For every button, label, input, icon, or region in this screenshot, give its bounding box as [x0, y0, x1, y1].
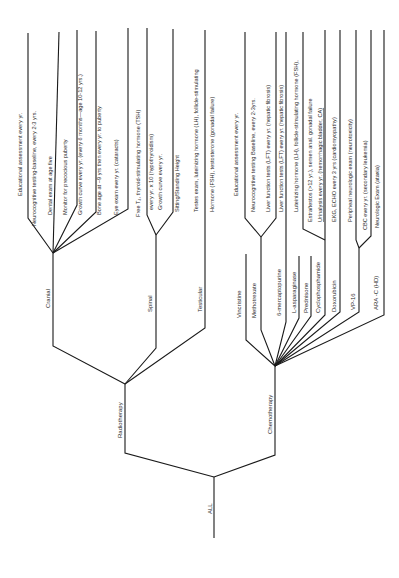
testicular-items: Testes exam, luteinizing hormone (LH), f… [193, 69, 215, 212]
leaf-spinal-hypothyroidism: every yr. x 10 (hypothyroidism) [148, 134, 154, 210]
leaf-cranial-dental: Dental exam at age five [47, 156, 53, 215]
leaf-cyclo-estradiol: Estra/testos (>12 yr.), semen anal. gona… [307, 98, 313, 222]
leaf-mtx-lft: Liver function tests (LFT) every yr. (he… [265, 85, 271, 212]
leaf-cyclo-lh-fsh: Luteinizing hormone (LH), follicle-stimu… [293, 60, 299, 212]
node-prednisone: Prednisone [303, 282, 309, 313]
node-all: ALL [207, 503, 213, 514]
leaf-testicular-hormone: Hormone (FSH), testosterone (gonadal fai… [209, 97, 215, 212]
leaf-6mp-lft: Liver function tests (LFT) every yr. (he… [278, 85, 284, 212]
node-radiotherapy: Radiotherapy [117, 402, 123, 438]
leaf-mtx-neurocognitive: Neurocognitive testing Baseline, every 2… [250, 98, 256, 212]
edge-methotrexate [261, 237, 275, 366]
cranial-items: Educational assessment every yr. Neuroco… [17, 74, 119, 226]
leaf-cranial-eye: Eye exam every yr. (cataracts) [113, 139, 119, 215]
leaf-cranial-growth: Growth curve every yr. (every 6 months—a… [77, 74, 83, 215]
leaf-doxo-ekg: EKG, ECHO every 3 yrs (cardiomyopathy) [331, 117, 337, 222]
leaf-cranial-educational: Educational assessment every yr. [17, 112, 23, 196]
leaf-spinal-thyroid: Free T₄, thyroid-stimulating hormone (TS… [135, 110, 141, 217]
node-asparaginase: L-asparaginase [291, 271, 297, 313]
node-cranial: Cranial [45, 289, 51, 308]
leaf-testicular-exam: Testes exam, luteinizing hormone (LH), f… [193, 69, 199, 212]
leaf-cranial-bone-age: Bone age at ~9 yrs then every yr. to pub… [96, 106, 102, 215]
node-doxorubicin: Doxorubicin [331, 280, 337, 312]
node-chemotherapy: Chemotherapy [267, 395, 273, 434]
leaf-vp16-cbc: CBC every yr. (secondary leukemia) [362, 140, 368, 230]
leaf-spinal-growth: Growth curve every yr. [157, 154, 163, 210]
leaf-arac-neuro: Neurologic Exam (ataxia) [374, 165, 380, 228]
treatment-followup-tree: ALL Radiotherapy Chemotherapy Cranial Sp… [0, 0, 399, 578]
edge-root-chemotherapy [214, 366, 275, 477]
edge-root-radiotherapy [125, 384, 214, 477]
node-arac: ARA -C (HD) [373, 276, 379, 310]
leaf-spinal-height: Sitting/Standing Height [174, 155, 180, 212]
leaf-cyclo-urinalysis: Urinalysis every yr. (hemorrhagic bladde… [317, 108, 323, 222]
chemo-items: Educational assessment every yr. Neuroco… [233, 60, 380, 230]
edge-cranial [53, 253, 125, 384]
leaf-cranial-puberty: Monitor for precocious puberty [62, 139, 68, 215]
node-mercaptopurine: 6-mercaptopurine [276, 268, 282, 316]
leaf-mtx-educational: Educational assessment every yr. [233, 112, 239, 196]
leaf-vp16-neuro: Peripheal neurologic exam (neurotoxicity… [347, 119, 353, 222]
leaf-cranial-neurocognitive: Neurocognitive testing-baseline, every 2… [31, 111, 37, 226]
node-methotrexate: Methotrexate [251, 282, 257, 318]
edge-vp16-left [356, 30, 359, 248]
edge-cranial-4 [53, 31, 96, 253]
node-cyclophosphamide: Cyclophosphamide [315, 261, 321, 313]
node-testicular: Testicular [197, 287, 203, 312]
node-vp16: VP-16 [350, 293, 356, 310]
edge-cranial-2 [53, 32, 59, 253]
node-spinal: Spinal [147, 295, 153, 312]
node-vincristine: Vincristine [236, 290, 242, 318]
